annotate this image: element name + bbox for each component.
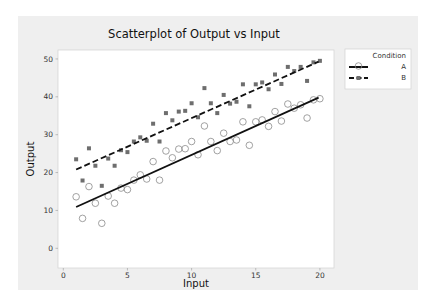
data-point bbox=[158, 140, 162, 144]
x-tick-label: 20 bbox=[315, 271, 325, 280]
x-tick-label: 0 bbox=[61, 271, 66, 280]
y-axis-title: Output bbox=[25, 142, 36, 177]
data-point bbox=[267, 87, 271, 91]
data-point bbox=[202, 86, 206, 90]
legend-title: Condition bbox=[373, 52, 406, 60]
data-point bbox=[209, 101, 213, 105]
data-point bbox=[74, 157, 78, 161]
data-point bbox=[177, 110, 181, 114]
data-point bbox=[106, 157, 110, 161]
y-tick-label: 40 bbox=[43, 92, 53, 101]
data-point bbox=[183, 109, 187, 113]
legend-label-a: A bbox=[401, 63, 406, 71]
data-point bbox=[138, 135, 142, 139]
data-point bbox=[113, 164, 117, 168]
data-point bbox=[305, 79, 309, 83]
y-tick-label: 10 bbox=[43, 206, 53, 215]
chart-frame: Scatterplot of Output vs Input 010203040… bbox=[18, 16, 418, 290]
data-point bbox=[190, 101, 194, 105]
legend-label-b: B bbox=[401, 74, 406, 82]
y-tick-label: 0 bbox=[48, 244, 53, 253]
data-point bbox=[254, 82, 258, 86]
data-point bbox=[151, 122, 155, 126]
data-point bbox=[81, 179, 85, 183]
data-point bbox=[93, 164, 97, 168]
legend: Condition A B bbox=[345, 49, 411, 89]
plot-area bbox=[58, 50, 334, 268]
data-point bbox=[273, 72, 277, 76]
data-point bbox=[286, 65, 290, 69]
y-tick-label: 30 bbox=[43, 130, 53, 139]
data-point bbox=[279, 82, 283, 86]
data-point bbox=[222, 93, 226, 97]
x-tick-label: 15 bbox=[251, 271, 261, 280]
y-tick-label: 50 bbox=[43, 55, 53, 64]
scatterplot: Scatterplot of Output vs Input 010203040… bbox=[18, 16, 418, 290]
x-axis-title: Input bbox=[183, 278, 209, 289]
data-point bbox=[164, 111, 168, 115]
data-point bbox=[87, 146, 91, 150]
chart-title: Scatterplot of Output vs Input bbox=[108, 27, 280, 41]
data-point bbox=[170, 118, 174, 122]
filled-square-icon bbox=[357, 76, 361, 80]
data-point bbox=[241, 82, 245, 86]
y-axis: 01020304050 bbox=[43, 55, 58, 253]
data-point bbox=[215, 111, 219, 115]
data-point bbox=[247, 104, 251, 108]
data-point bbox=[235, 100, 239, 104]
data-point bbox=[100, 184, 104, 188]
y-tick-label: 20 bbox=[43, 168, 53, 177]
data-point bbox=[260, 80, 264, 84]
data-point bbox=[125, 150, 129, 154]
x-tick-label: 5 bbox=[125, 271, 130, 280]
